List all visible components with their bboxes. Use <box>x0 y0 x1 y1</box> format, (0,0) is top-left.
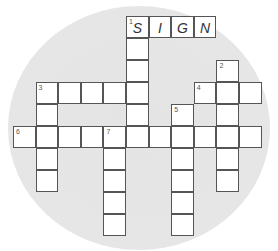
crossword-cell[interactable]: 5 <box>171 104 194 126</box>
crossword-cell[interactable] <box>36 170 59 192</box>
crossword-cell[interactable]: 6 <box>13 126 36 148</box>
crossword-cell[interactable] <box>103 170 126 192</box>
crossword-cell[interactable] <box>36 126 59 148</box>
crossword-cell[interactable] <box>216 170 239 192</box>
crossword-cell[interactable] <box>239 126 262 148</box>
crossword-cell[interactable] <box>36 104 59 126</box>
crossword-cell[interactable] <box>103 82 126 104</box>
crossword-cell[interactable] <box>216 82 239 104</box>
crossword-cell[interactable] <box>103 148 126 170</box>
crossword-cell[interactable]: G <box>171 16 194 38</box>
cell-letter: I <box>150 20 171 36</box>
crossword-cell[interactable] <box>36 148 59 170</box>
crossword-cell[interactable] <box>194 126 217 148</box>
crossword-cell[interactable] <box>126 104 149 126</box>
clue-number: 2 <box>219 62 223 69</box>
crossword-cell[interactable]: 1S <box>126 16 149 38</box>
crossword-cell[interactable] <box>81 126 104 148</box>
crossword-cell[interactable] <box>171 192 194 214</box>
crossword-cell[interactable]: N <box>194 16 217 38</box>
clue-number: 5 <box>174 106 178 113</box>
clue-number: 6 <box>16 128 20 135</box>
crossword-cell[interactable]: I <box>149 16 172 38</box>
cell-letter: S <box>127 20 148 36</box>
clue-number: 4 <box>197 84 201 91</box>
crossword-cell[interactable] <box>58 126 81 148</box>
crossword-cell[interactable] <box>239 82 262 104</box>
crossword-cell[interactable]: 2 <box>216 60 239 82</box>
crossword-cell[interactable] <box>171 170 194 192</box>
crossword-cell[interactable] <box>216 126 239 148</box>
clue-number: 7 <box>106 128 110 135</box>
crossword-cell[interactable] <box>103 192 126 214</box>
crossword-cell[interactable] <box>216 104 239 126</box>
crossword-cell[interactable] <box>126 82 149 104</box>
crossword-cell[interactable] <box>216 148 239 170</box>
cell-letter: N <box>195 20 216 36</box>
cell-letter: G <box>172 20 193 36</box>
crossword-cell[interactable] <box>171 214 194 236</box>
crossword-cell[interactable] <box>171 148 194 170</box>
crossword-grid: 1SIGN234567 <box>0 0 278 251</box>
crossword-cell[interactable] <box>171 126 194 148</box>
crossword-cell[interactable]: 3 <box>36 82 59 104</box>
crossword-cell[interactable] <box>58 82 81 104</box>
clue-number: 3 <box>39 84 43 91</box>
crossword-cell[interactable] <box>126 126 149 148</box>
crossword-cell[interactable] <box>81 82 104 104</box>
crossword-cell[interactable] <box>126 38 149 60</box>
crossword-cell[interactable] <box>126 60 149 82</box>
crossword-cell[interactable] <box>149 126 172 148</box>
crossword-cell[interactable]: 4 <box>194 82 217 104</box>
crossword-cell[interactable]: 7 <box>103 126 126 148</box>
crossword-cell[interactable] <box>103 214 126 236</box>
